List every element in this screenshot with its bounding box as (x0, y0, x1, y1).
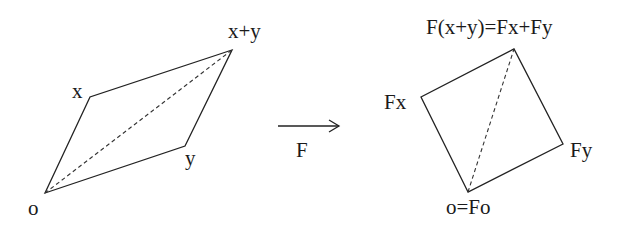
label-o: o (28, 196, 39, 220)
label-Fy: Fy (570, 138, 593, 162)
arrow-label-F: F (296, 138, 308, 162)
mapping-arrow: F (278, 120, 339, 162)
label-Fx: Fx (384, 90, 407, 114)
label-o-equals-Fo: o=Fo (446, 195, 491, 219)
label-x: x (72, 79, 83, 103)
label-x-plus-y: x+y (228, 19, 261, 43)
left-parallelogram: o x x+y y (28, 19, 261, 220)
left-diagonal-dashed (45, 50, 232, 193)
linear-map-diagram: o x x+y y F o=Fo Fx F(x+y)=Fx+Fy Fy (0, 0, 625, 225)
label-F-x-plus-y: F(x+y)=Fx+Fy (426, 15, 553, 39)
label-y: y (185, 146, 196, 170)
right-parallelogram: o=Fo Fx F(x+y)=Fx+Fy Fy (384, 15, 593, 219)
right-parallelogram-outline (421, 49, 563, 192)
right-diagonal-dashed (468, 49, 514, 192)
diagram-svg: o x x+y y F o=Fo Fx F(x+y)=Fx+Fy Fy (0, 0, 625, 225)
